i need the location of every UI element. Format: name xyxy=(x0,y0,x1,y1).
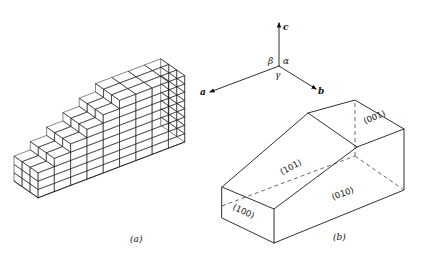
crystal-axes: c b a β α γ xyxy=(200,22,324,97)
face-001-label: (001) xyxy=(362,108,387,126)
panel-b-caption: (b) xyxy=(333,232,346,242)
c-axis-label: c xyxy=(283,22,289,32)
a-axis-label: a xyxy=(200,87,206,97)
beta-angle-label: β xyxy=(267,56,273,66)
gamma-angle-label: γ xyxy=(275,70,281,80)
hidden-edge-right xyxy=(355,156,404,190)
face-100-label: (100) xyxy=(231,202,256,221)
face-101-label: (101) xyxy=(278,157,303,177)
b-axis-arrow xyxy=(279,66,316,89)
alpha-angle-label: α xyxy=(283,56,289,66)
panel-b-crystal-block: (001) (101) (010) (100) xyxy=(222,100,404,243)
a-axis-arrow xyxy=(210,66,279,92)
crystal-figure: c b a β α γ (a) (001) (101) (010) (100) … xyxy=(0,0,423,260)
panel-a-staircase xyxy=(14,59,185,198)
face-010-label: (010) xyxy=(330,185,355,202)
ridge-edge xyxy=(308,113,357,147)
panel-a-caption: (a) xyxy=(130,234,143,244)
b-axis-label: b xyxy=(318,86,324,96)
outline xyxy=(222,100,404,243)
